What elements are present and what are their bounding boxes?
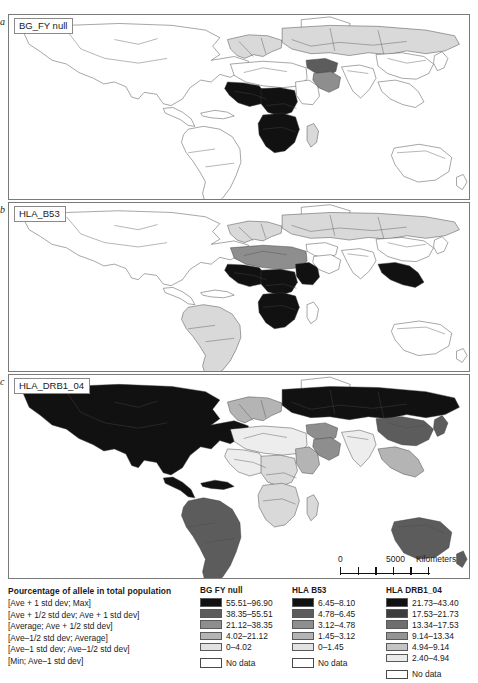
legend-color-swatch: [200, 609, 222, 618]
legend-description-row: [Ave–1/2 std dev; Average]: [8, 633, 196, 645]
scale-bar-tick: [340, 567, 341, 575]
legend-bin-list: 21.73–43.4017.53–21.7313.34–17.539.14–13…: [386, 597, 476, 680]
scale-bar-tick: [410, 567, 411, 575]
legend-bin-label: 9.14–13.34: [412, 631, 454, 641]
legend-no-data-label: No data: [318, 658, 347, 668]
legend-bin-label: 6.45–8.10: [318, 598, 355, 608]
legend-bin-label: 2.40–4.94: [412, 653, 449, 663]
map-panel-a: a BG_FY null: [8, 14, 470, 200]
legend-color-swatch: [200, 632, 222, 641]
scale-bar-tick: [428, 567, 429, 575]
legend-bin-row: 0–1.45: [292, 641, 378, 652]
legend-color-swatch: [386, 654, 408, 663]
legend-bin-label: 4.02–21.12: [226, 631, 268, 641]
panel-a-frame: [8, 14, 470, 200]
map-panel-c: c HLA_DRB1_04: [8, 374, 470, 579]
legend-column-header: HLA B53: [292, 586, 378, 595]
legend-bin-row: 6.45–8.10: [292, 597, 378, 608]
legend-bin-row: 55.51–96.90: [200, 597, 288, 608]
panel-b-title: HLA_B53: [14, 206, 66, 222]
legend-description-row: [Ave + 1 std dev; Max]: [8, 598, 196, 610]
map-panel-b: b HLA_B53: [8, 202, 470, 372]
legend-bin-label: 4.94–9.14: [412, 642, 449, 652]
panel-c-frame: [8, 374, 470, 579]
legend: Pourcentage of allele in total populatio…: [8, 586, 472, 678]
legend-color-swatch: [386, 632, 408, 641]
scale-bar-units-label: Kilometers: [416, 554, 456, 564]
legend-bin-label: 0–1.45: [318, 642, 344, 652]
legend-column-hla-drb1-04: HLA DRB1_04 21.73–43.4017.53–21.7313.34–…: [386, 586, 476, 680]
legend-description-column: Pourcentage of allele in total populatio…: [8, 586, 196, 668]
legend-no-data-swatch: [292, 658, 314, 667]
panel-b-frame: [8, 202, 470, 372]
legend-color-swatch: [386, 620, 408, 629]
scale-bar-graphic: [338, 567, 433, 576]
panel-c-map: [9, 375, 469, 578]
legend-bin-row: 9.14–13.34: [386, 630, 476, 641]
legend-description-header: Pourcentage of allele in total populatio…: [8, 586, 196, 596]
legend-color-swatch: [386, 598, 408, 607]
panel-letter-c: c: [0, 376, 4, 387]
legend-bin-list: 6.45–8.104.78–6.453.12–4.781.45–3.120–1.…: [292, 597, 378, 669]
legend-no-data-row: No data: [292, 657, 378, 668]
panel-b-map: [9, 203, 469, 371]
legend-bin-row: 21.12–38.35: [200, 619, 288, 630]
legend-description-row: [Ave + 1/2 std dev; Ave + 1 std dev]: [8, 610, 196, 622]
legend-color-swatch: [386, 609, 408, 618]
panel-a-title: BG_FY null: [14, 18, 73, 34]
legend-column-header: BG FY null: [200, 586, 288, 595]
scale-bar-tick: [358, 567, 359, 575]
legend-color-swatch: [200, 643, 222, 652]
legend-color-swatch: [292, 609, 314, 618]
legend-bin-list: 55.51–96.9038.35–55.5121.12–38.354.02–21…: [200, 597, 288, 669]
legend-bin-label: 38.35–55.51: [226, 609, 273, 619]
legend-description-row: [Average; Ave + 1/2 std dev]: [8, 621, 196, 633]
legend-description-row: [Min; Ave–1 std dev]: [8, 656, 196, 668]
legend-bin-row: 4.02–21.12: [200, 630, 288, 641]
legend-no-data-label: No data: [412, 669, 441, 679]
legend-bin-row: 4.78–6.45: [292, 608, 378, 619]
legend-bin-row: 13.34–17.53: [386, 619, 476, 630]
legend-color-swatch: [200, 620, 222, 629]
legend-color-swatch: [292, 643, 314, 652]
legend-bin-label: 13.34–17.53: [412, 620, 459, 630]
panel-c-title: HLA_DRB1_04: [14, 378, 90, 394]
scale-bar-tick: [375, 567, 376, 575]
legend-bin-row: 4.94–9.14: [386, 641, 476, 652]
legend-bin-label: 21.12–38.35: [226, 620, 273, 630]
legend-bin-label: 21.73–43.40: [412, 598, 459, 608]
legend-bin-label: 4.78–6.45: [318, 609, 355, 619]
legend-color-swatch: [386, 643, 408, 652]
legend-bin-row: 38.35–55.51: [200, 608, 288, 619]
legend-description-row: [Ave–1 std dev; Ave–1/2 std dev]: [8, 644, 196, 656]
legend-bin-row: 3.12–4.78: [292, 619, 378, 630]
legend-color-swatch: [292, 620, 314, 629]
legend-no-data-row: No data: [386, 669, 476, 680]
legend-bin-label: 17.53–21.73: [412, 609, 459, 619]
legend-bin-row: 0–4.02: [200, 641, 288, 652]
legend-bin-label: 1.45–3.12: [318, 631, 355, 641]
legend-bin-row: 17.53–21.73: [386, 608, 476, 619]
legend-no-data-label: No data: [226, 658, 255, 668]
scale-bar: 0 5000 Kilometers: [338, 554, 464, 578]
legend-description-rows: [Ave + 1 std dev; Max][Ave + 1/2 std dev…: [8, 598, 196, 668]
scale-bar-max-label: 5000: [386, 554, 405, 564]
legend-bin-row: 1.45–3.12: [292, 630, 378, 641]
legend-color-swatch: [200, 598, 222, 607]
legend-column-hla-b53: HLA B53 6.45–8.104.78–6.453.12–4.781.45–…: [292, 586, 378, 669]
legend-column-bg-fy-null: BG FY null 55.51–96.9038.35–55.5121.12–3…: [200, 586, 288, 669]
legend-bin-label: 3.12–4.78: [318, 620, 355, 630]
legend-color-swatch: [292, 598, 314, 607]
scale-bar-line: [340, 573, 430, 574]
legend-color-swatch: [292, 632, 314, 641]
legend-bin-label: 0–4.02: [226, 642, 252, 652]
panel-letter-a: a: [0, 16, 5, 27]
legend-no-data-swatch: [200, 658, 222, 667]
scale-bar-zero-label: 0: [338, 554, 343, 564]
legend-bin-row: 2.40–4.94: [386, 652, 476, 663]
legend-no-data-swatch: [386, 670, 408, 679]
panel-letter-b: b: [0, 204, 5, 215]
legend-column-header: HLA DRB1_04: [386, 586, 476, 595]
legend-no-data-row: No data: [200, 657, 288, 668]
legend-bin-label: 55.51–96.90: [226, 598, 273, 608]
